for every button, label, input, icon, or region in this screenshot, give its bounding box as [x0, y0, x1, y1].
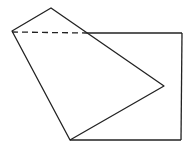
folded-shape-diagram [0, 0, 189, 150]
rectangle-right-edge [181, 33, 182, 140]
hidden-edge-dashed [12, 32, 86, 33]
folded-quadrilateral [12, 8, 164, 140]
